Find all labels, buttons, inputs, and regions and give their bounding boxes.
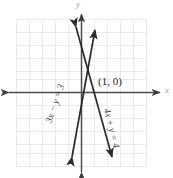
line-3x-minus-y-equals-3	[72, 30, 95, 157]
y-axis-label: y	[76, 0, 80, 9]
graph-figure: y x (1, 0) 3x − y = 3 4x + y = 4	[0, 0, 173, 178]
x-axis-label: x	[165, 86, 169, 95]
intersection-point-label: (1, 0)	[98, 76, 122, 87]
coordinate-plane	[0, 0, 173, 178]
